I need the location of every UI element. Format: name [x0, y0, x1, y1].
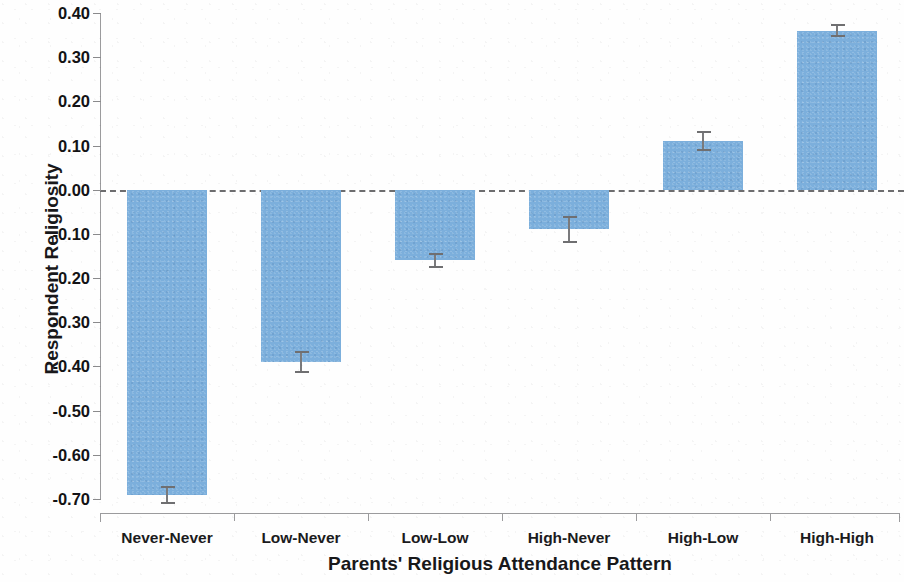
error-bar-cap [161, 502, 175, 504]
bar [127, 190, 207, 495]
error-bar-cap [429, 253, 443, 255]
x-tick-mark [368, 513, 369, 521]
y-tick-label: -0.50 [28, 401, 90, 420]
x-axis-right-end-tick [899, 513, 900, 522]
x-tick-mark [636, 513, 637, 521]
x-tick-mark [502, 513, 503, 521]
error-bar-cap [697, 149, 711, 151]
error-bar [434, 254, 436, 267]
y-tick-mark [93, 234, 101, 235]
y-tick-mark [93, 146, 101, 147]
x-axis-line [100, 513, 900, 514]
x-tick-mark [770, 513, 771, 521]
y-tick-label: 0.30 [28, 48, 90, 67]
x-tick-label: High-High [757, 529, 904, 547]
bar-chart-figure: Respondent Religiosity 0.400.300.200.100… [0, 0, 904, 582]
y-tick-mark [93, 455, 101, 456]
error-bar-cap [161, 486, 175, 488]
y-tick-label: -0.30 [28, 313, 90, 332]
error-bar [166, 487, 168, 503]
error-bar [300, 352, 302, 371]
error-bar-cap [563, 216, 577, 218]
bar [261, 190, 341, 362]
y-tick-mark [93, 57, 101, 58]
y-tick-label: -0.40 [28, 357, 90, 376]
x-tick-mark [234, 513, 235, 521]
bar [395, 190, 475, 261]
error-bar-cap [295, 371, 309, 373]
x-tick-mark [100, 513, 101, 521]
error-bar-cap [697, 131, 711, 133]
error-bar-cap [295, 351, 309, 353]
error-bar-cap [831, 24, 845, 26]
error-bar [702, 132, 704, 150]
y-tick-mark [93, 366, 101, 367]
y-tick-label: -0.20 [28, 269, 90, 288]
y-tick-mark [93, 13, 101, 14]
y-tick-label: 0.00 [28, 180, 90, 199]
plot-area [100, 0, 904, 582]
y-tick-mark [93, 190, 101, 191]
x-axis-title: Parents' Religious Attendance Pattern [100, 553, 900, 575]
y-tick-label: 0.40 [28, 4, 90, 23]
y-tick-label: 0.20 [28, 92, 90, 111]
y-tick-mark [93, 499, 101, 500]
y-tick-mark [93, 411, 101, 412]
bar [797, 31, 877, 190]
y-tick-mark [93, 278, 101, 279]
zero-reference-line [100, 190, 904, 192]
y-tick-mark [93, 101, 101, 102]
y-tick-label: -0.70 [28, 490, 90, 509]
y-tick-label: -0.10 [28, 224, 90, 243]
y-tick-label: 0.10 [28, 136, 90, 155]
error-bar-cap [831, 35, 845, 37]
y-tick-mark [93, 322, 101, 323]
error-bar [568, 217, 570, 242]
y-tick-label: -0.60 [28, 445, 90, 464]
y-axis-tick-labels: 0.400.300.200.100.00-0.10-0.20-0.30-0.40… [26, 0, 90, 582]
error-bar-cap [563, 241, 577, 243]
error-bar-cap [429, 266, 443, 268]
